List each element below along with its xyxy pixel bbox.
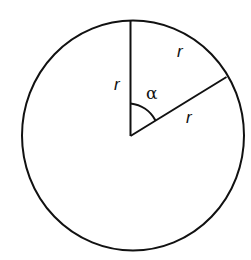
label-radius-vertical: r xyxy=(114,75,121,94)
label-angle-alpha: α xyxy=(146,83,158,103)
radius-slanted-line xyxy=(131,77,227,136)
label-radius-slanted: r xyxy=(186,108,193,127)
circle-sector-diagram: r r r α xyxy=(0,0,251,260)
angle-arc xyxy=(131,104,156,121)
label-arc-side: r xyxy=(177,42,184,61)
